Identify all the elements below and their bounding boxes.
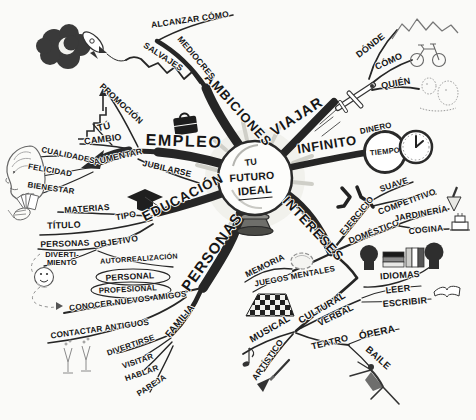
dancer-icon	[350, 362, 399, 404]
center-label-line3: IDEAL	[237, 184, 272, 201]
node-personas-edu: PERSONAS	[40, 239, 90, 250]
hand-cards-icon	[8, 193, 39, 222]
open-book-icon	[434, 286, 460, 297]
smiley-ball-icon	[35, 268, 54, 288]
german-flag-icon	[383, 252, 404, 267]
node-titulo: TÍTULO	[47, 221, 81, 232]
wine-glasses-icon	[63, 338, 91, 373]
brain-icon	[291, 253, 313, 269]
cake-icon	[450, 213, 470, 230]
branch-label-empleo: EMPLEO	[145, 131, 222, 151]
crescent-moon-cloud-icon	[36, 24, 91, 69]
traveler-icon	[420, 78, 458, 111]
mountains-icon	[392, 19, 458, 39]
node-divertimiento-line2: MIENTO	[45, 259, 79, 267]
italian-flag-icon	[406, 248, 424, 267]
airplane-icon	[338, 84, 374, 111]
bicycle-icon	[411, 44, 446, 67]
mindmap-canvas: TU FUTURO IDEAL AMBICIONES VIAJAR INFINI…	[0, 0, 476, 420]
node-divertimiento: DIVERTI- MIENTO	[45, 251, 79, 267]
clock-icon	[400, 131, 432, 163]
center-label-line1: TU	[244, 157, 258, 168]
trowel-icon	[447, 187, 461, 211]
